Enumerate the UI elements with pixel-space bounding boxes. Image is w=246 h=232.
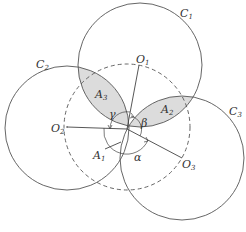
- label-beta: β: [140, 117, 147, 130]
- label-alpha: α: [134, 151, 142, 164]
- label-o3: O3: [182, 158, 196, 172]
- label-c1: C1: [180, 7, 193, 21]
- segment-to-o2: [67, 127, 127, 129]
- label-o2: O2: [51, 122, 65, 136]
- arrow-beta: [130, 113, 134, 118]
- label-c3: C3: [229, 105, 242, 119]
- label-o1: O1: [136, 53, 150, 67]
- label-a1: A1: [92, 149, 105, 163]
- label-gamma: γ: [109, 108, 116, 121]
- center-dot-o2: [66, 126, 68, 128]
- label-c2: C2: [36, 58, 49, 72]
- three-circles-diagram: C1 C2 C3 O1 O2 O3 A1 A2 A3 γ β α: [0, 0, 246, 232]
